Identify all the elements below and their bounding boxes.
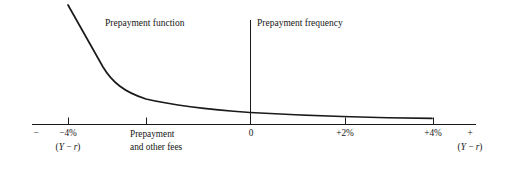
tick-label-zero: 0 (249, 129, 254, 139)
tick-label-minus4: −4% (59, 129, 77, 139)
tick-unit-left: (Y − r) (56, 143, 81, 153)
region-annotation-label: Prepayment frequency (257, 19, 343, 29)
tick-unit-right: (Y − r) (458, 143, 483, 153)
tick-label-plus4: +4% (424, 129, 442, 139)
prepayment-frequency-chart: Prepayment function Prepayment frequency… (0, 0, 508, 171)
curve-annotation-label: Prepayment function (105, 19, 184, 29)
fees-label-line2: and other fees (130, 142, 182, 154)
axis-right-sign: + (467, 129, 472, 139)
fees-label-line1: Prepayment (130, 129, 174, 141)
axis-left-sign: − (33, 129, 38, 139)
tick-label-plus2: +2% (336, 129, 354, 139)
